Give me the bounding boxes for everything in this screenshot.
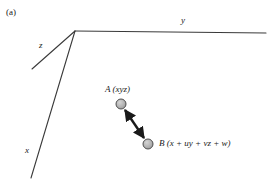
- y-axis-line: [75, 31, 266, 33]
- point-b-label: B (x + uy + vz + w): [159, 139, 230, 148]
- figure-canvas: (a) y z x A (xyz) B (x + uy + vz + w): [0, 0, 271, 187]
- z-axis-line: [32, 31, 75, 69]
- point-a-marker: [116, 99, 126, 109]
- point-a-label: A (xyz): [105, 85, 130, 94]
- diagram-graphics: [0, 0, 271, 187]
- z-axis-label: z: [39, 41, 43, 50]
- double-headed-arrow: [125, 110, 144, 138]
- x-axis-label: x: [25, 146, 29, 155]
- point-b-marker: [143, 139, 153, 149]
- x-axis-line: [31, 31, 75, 178]
- y-axis-label: y: [181, 16, 185, 25]
- panel-caption: (a): [6, 8, 16, 17]
